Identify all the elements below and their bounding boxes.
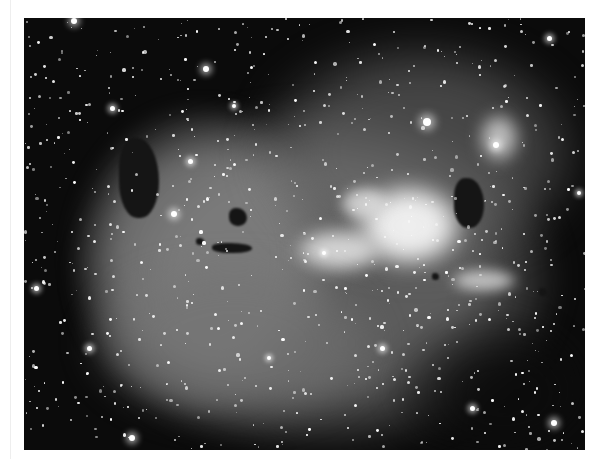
bright-star (129, 435, 135, 441)
bright-star (87, 346, 92, 351)
bright-star (188, 159, 193, 164)
star-field (24, 18, 585, 450)
bright-star (493, 142, 499, 148)
bright-star (232, 104, 236, 108)
bright-star (577, 191, 581, 195)
bright-star (551, 420, 557, 426)
bright-star (71, 18, 77, 24)
bright-star (380, 346, 385, 351)
bright-star (423, 118, 431, 126)
nebula-photograph (24, 18, 585, 450)
bright-star (110, 106, 115, 111)
bright-star (322, 251, 326, 255)
bright-star (267, 356, 271, 360)
bright-star (34, 286, 39, 291)
page-edge-line (10, 0, 11, 459)
bright-star (171, 211, 177, 217)
bright-star (203, 66, 209, 72)
bright-star (470, 406, 475, 411)
bright-star (547, 36, 552, 41)
